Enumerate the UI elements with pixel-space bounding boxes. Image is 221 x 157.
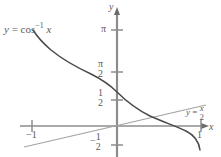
line-eq-fraction: x 2 [200,104,205,122]
curve-eq-exponent: −1 [35,21,43,30]
x-axis-arrowhead [201,123,209,129]
x-tick-label-one: 1 [197,130,202,140]
pi-over-2-denominator: 2 [98,69,103,79]
y-tick-label-pi-over-2: π 2 [98,59,103,79]
curve-eq-equals: = [12,23,18,35]
pi-over-2-fraction: π 2 [98,59,103,79]
curve-eq-argument: x [46,23,51,35]
curve-eq-lhs: y [4,23,9,35]
y-tick-label-one-half: 1 2 [98,88,103,108]
neg-one-half-fraction: 1 2 [96,132,101,152]
curve-eq-function: cos [21,23,36,35]
y-tick-label-neg-one-half: − 1 2 [90,132,101,152]
x-tick-label-neg-one: −1 [26,130,37,140]
x-axis-label: x [209,122,213,132]
y-axis-label: y [109,2,113,12]
y-tick-label-pi: π [101,24,106,34]
y-axis-arrowhead [114,7,120,15]
line-eq-lhs: y [186,107,190,117]
line-eq-denominator: 2 [200,113,205,122]
neg-one-half-denominator: 2 [96,142,101,152]
one-half-denominator: 2 [98,98,103,108]
line-eq-equals: = [192,107,197,117]
line-equation-label: y = x 2 [186,104,204,122]
arccos-graph-figure: y = cos−1 x y = x 2 y x π π 2 1 2 − 1 2 [0,0,221,157]
one-half-fraction: 1 2 [98,88,103,108]
curve-equation-label: y = cos−1 x [4,22,51,35]
